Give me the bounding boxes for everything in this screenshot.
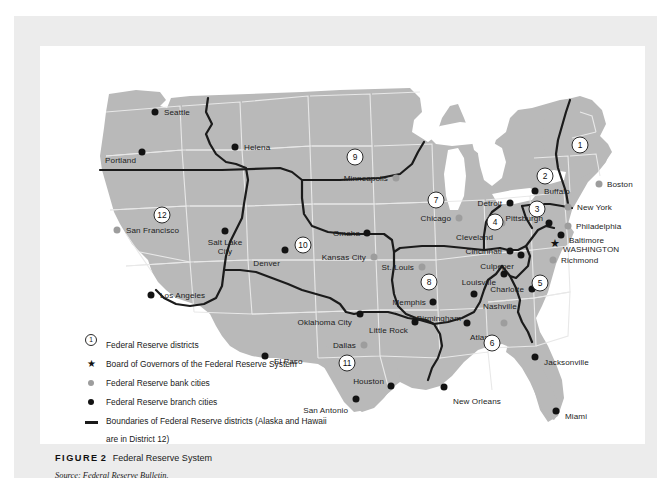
map-panel: San FranciscoMinneapolisKansas CityChica… (40, 46, 645, 444)
district-number-8: 8 (421, 274, 438, 291)
district-number-1: 1 (572, 137, 589, 154)
branch-city-label: Salt LakeCity (208, 238, 243, 257)
branch-city-label: Culpeper (480, 262, 514, 271)
branch-city-dot (471, 291, 478, 298)
figure-title: Federal Reserve System (113, 453, 212, 463)
branch-city-label: Omaha (333, 229, 360, 238)
bank-city-dot (393, 175, 400, 182)
washington-label: WASHINGTON (563, 245, 619, 254)
legend-star-glyph: ★ (87, 358, 96, 369)
legend-bank-dot (88, 380, 95, 387)
legend-label-board: Board of Governors of the Federal Reserv… (106, 359, 297, 369)
bank-city-label: San Francisco (126, 226, 179, 235)
board-of-governors-star-icon: ★ (550, 238, 560, 249)
legend-item-boundaries: Boundaries of Federal Reserve districts … (81, 410, 331, 444)
branch-city-dot (532, 354, 539, 361)
legend-label-boundaries: Boundaries of Federal Reserve districts … (106, 416, 327, 444)
bank-city-label: St. Louis (382, 263, 414, 272)
branch-city-dot (353, 396, 360, 403)
bank-city-dot (371, 254, 378, 261)
branch-city-dot (139, 149, 146, 156)
legend-item-districts: 1 Federal Reserve districts (81, 334, 331, 352)
legend-line (85, 421, 98, 424)
district-number-3: 3 (529, 201, 546, 218)
branch-city-label: Detroit (477, 199, 502, 208)
branch-city-dot (430, 299, 437, 306)
legend-branch-dot (88, 399, 95, 406)
branch-city-dot (441, 384, 448, 391)
bank-city-label: New York (577, 203, 612, 212)
branch-city-label: Jacksonville (544, 358, 589, 367)
legend-label-branch-cities: Federal Reserve branch cities (106, 397, 217, 407)
branch-city-dot (532, 188, 539, 195)
bank-city-dot (456, 215, 463, 222)
district-number-2: 2 (537, 168, 554, 185)
district-number-7: 7 (428, 192, 445, 209)
bank-city-label: Philadelphia (576, 222, 621, 231)
district-number-6: 6 (484, 335, 501, 352)
bank-city-label: Dallas (333, 341, 356, 350)
district-number-12: 12 (154, 207, 171, 224)
branch-city-dot (232, 144, 239, 151)
branch-city-dot (152, 109, 159, 116)
legend-item-branch-cities: Federal Reserve branch cities (81, 391, 331, 409)
bank-city-dot (565, 204, 572, 211)
branch-city-dot (501, 271, 508, 278)
branch-city-label: Birmingham (417, 314, 461, 323)
legend-item-board-of-governors: ★ Board of Governors of the Federal Rese… (81, 353, 331, 371)
legend-item-bank-cities: Federal Reserve bank cities (81, 372, 331, 390)
district-number-4: 4 (487, 214, 504, 231)
bank-city-dot (419, 264, 426, 271)
bank-city-dot (565, 223, 572, 230)
bank-city-dot (596, 181, 603, 188)
bank-city-dot (361, 342, 368, 349)
branch-city-label: Seattle (164, 108, 190, 117)
branch-city-label: Houston (353, 377, 384, 386)
legend-label-bank-cities: Federal Reserve bank cities (106, 378, 210, 388)
branch-city-label: Baltimore (569, 236, 604, 245)
line-icon (81, 410, 101, 421)
bank-city-label: Chicago (421, 214, 451, 223)
bank-city-label: Boston (607, 180, 633, 189)
black-dot-icon (81, 391, 101, 402)
branch-city-label: Portland (105, 156, 136, 165)
legend-circle-glyph: 1 (85, 334, 97, 346)
bank-city-label: Cleveland (456, 233, 493, 242)
star-icon: ★ (81, 353, 101, 364)
bank-city-dot (114, 227, 121, 234)
branch-city-dot (507, 248, 514, 255)
source-text: Federal Reserve Bulletin. (83, 471, 169, 480)
bank-city-label: Minneapolis (344, 174, 388, 183)
bank-city-label: Kansas City (322, 253, 366, 262)
branch-city-dot (546, 220, 553, 227)
branch-city-dot (222, 228, 229, 235)
branch-city-dot (357, 311, 364, 318)
district-number-9: 9 (347, 149, 364, 166)
branch-city-dot (364, 230, 371, 237)
branch-city-label: Nashville (483, 302, 517, 311)
figure-label: FIGURE (55, 453, 99, 463)
branch-city-label: Miami (565, 412, 587, 421)
figure-caption: FIGURE2Federal Reserve System (55, 453, 212, 463)
bank-city-label: Richmond (561, 256, 598, 265)
branch-city-dot (388, 383, 395, 390)
district-number-circle-icon: 1 (81, 334, 101, 345)
branch-city-dot (507, 200, 514, 207)
gray-dot-icon (81, 372, 101, 383)
branch-city-label: Oklahoma City (298, 318, 352, 327)
branch-city-label: Memphis (392, 298, 426, 307)
branch-city-dot (282, 247, 289, 254)
branch-city-dot (464, 320, 471, 327)
map-legend: 1 Federal Reserve districts ★ Board of G… (81, 334, 331, 444)
figure-panel: San FranciscoMinneapolisKansas CityChica… (14, 16, 657, 478)
branch-city-label: Los Angeles (160, 291, 205, 300)
branch-city-dot (148, 292, 155, 299)
legend-label-districts: Federal Reserve districts (106, 340, 199, 350)
figure-source: Source: Federal Reserve Bulletin. (55, 471, 169, 480)
branch-city-label: Little Rock (369, 326, 408, 335)
bank-city-dot (550, 257, 557, 264)
branch-city-dot (518, 252, 525, 259)
lake-superior (426, 122, 492, 146)
branch-city-label: Cincinnati (465, 247, 502, 256)
branch-city-label: New Orleans (453, 397, 501, 406)
